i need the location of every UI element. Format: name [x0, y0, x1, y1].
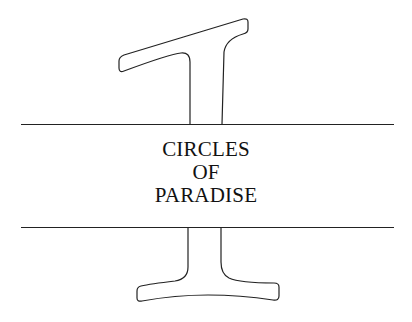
- numeral-top-outline: [119, 19, 248, 124]
- top-rule: [21, 124, 394, 125]
- bottom-rule: [21, 227, 394, 228]
- chapter-title-line-3: PARADISE: [0, 184, 412, 207]
- chapter-title-line-2: OF: [0, 161, 412, 184]
- chapter-title: CIRCLES OF PARADISE: [0, 138, 412, 207]
- numeral-bottom-outline: [137, 227, 279, 301]
- chapter-title-line-1: CIRCLES: [0, 138, 412, 161]
